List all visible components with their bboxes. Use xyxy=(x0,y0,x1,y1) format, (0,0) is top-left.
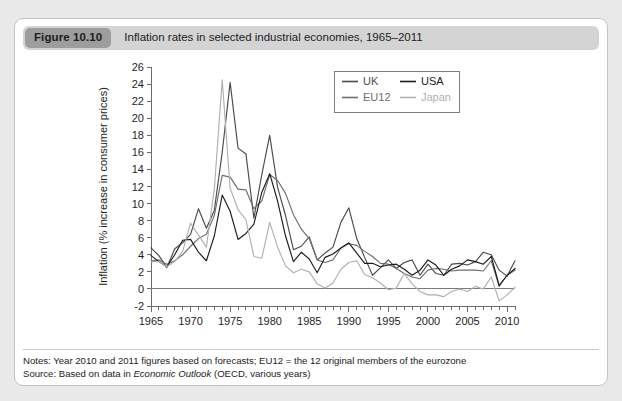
x-tick-label: 2010 xyxy=(495,315,519,327)
figure-number-chip: Figure 10.10 xyxy=(25,28,111,48)
legend-label-uk: UK xyxy=(363,75,379,87)
y-tick-label: 0 xyxy=(138,283,144,295)
series-line-eu12 xyxy=(151,175,515,287)
legend-label-japan: Japan xyxy=(421,91,451,103)
y-tick-label: 10 xyxy=(132,198,144,210)
legend-label-usa: USA xyxy=(421,75,444,87)
y-tick-label: 22 xyxy=(132,95,144,107)
y-tick-label: 12 xyxy=(132,181,144,193)
notes-line: Notes: Year 2010 and 2011 figures based … xyxy=(23,355,599,368)
y-tick-label: 8 xyxy=(138,215,144,227)
y-tick-label: 20 xyxy=(132,112,144,124)
y-tick-label: -2 xyxy=(134,300,144,312)
x-tick-label: 1985 xyxy=(297,315,321,327)
chart-plot-area: -202468101214161820222426196519701975198… xyxy=(16,57,608,347)
x-tick-label: 1975 xyxy=(218,315,242,327)
y-tick-label: 16 xyxy=(132,146,144,158)
y-tick-label: 4 xyxy=(138,249,144,261)
x-tick-label: 2000 xyxy=(416,315,440,327)
x-tick-label: 1980 xyxy=(257,315,281,327)
series-line-uk xyxy=(151,82,515,276)
y-tick-label: 26 xyxy=(132,61,144,73)
x-tick-label: 2005 xyxy=(455,315,479,327)
y-tick-label: 14 xyxy=(132,163,144,175)
y-tick-label: 6 xyxy=(138,232,144,244)
y-tick-label: 18 xyxy=(132,129,144,141)
x-tick-label: 1965 xyxy=(139,315,163,327)
source-prefix: Source: Based on data in xyxy=(23,368,133,379)
figure-card: Figure 10.10 Inflation rates in selected… xyxy=(14,18,608,386)
x-tick-label: 1990 xyxy=(337,315,361,327)
source-italic-title: Economic Outlook xyxy=(133,368,211,379)
figure-title: Inflation rates in selected industrial e… xyxy=(124,32,422,44)
figure-header-bar: Figure 10.10 Inflation rates in selected… xyxy=(23,26,599,50)
figure-footnotes: Notes: Year 2010 and 2011 figures based … xyxy=(23,349,599,387)
series-line-japan xyxy=(151,80,515,301)
x-tick-label: 1970 xyxy=(178,315,202,327)
y-tick-label: 2 xyxy=(138,266,144,278)
x-tick-label: 1995 xyxy=(376,315,400,327)
legend-label-eu12: EU12 xyxy=(363,91,391,103)
series-line-usa xyxy=(151,174,515,286)
source-line: Source: Based on data in Economic Outloo… xyxy=(23,368,599,381)
y-tick-label: 24 xyxy=(132,78,144,90)
y-axis-title: Inflation (% increase in consumer prices… xyxy=(97,87,109,286)
inflation-line-chart: -202468101214161820222426196519701975198… xyxy=(16,57,608,347)
source-suffix: (OECD, various years) xyxy=(211,368,310,379)
